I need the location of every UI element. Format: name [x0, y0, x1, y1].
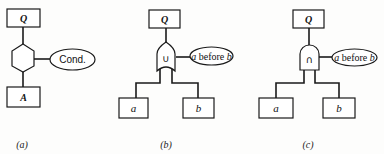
- node-a-label: A: [19, 92, 27, 103]
- inhibit-gate-hexagon-icon: [12, 44, 34, 72]
- node-q-label: Q: [305, 14, 312, 25]
- caption-b: (b): [160, 139, 172, 151]
- intersection-symbol: ∩: [306, 54, 313, 65]
- node-q-label: Q: [161, 14, 168, 25]
- union-symbol: ∪: [162, 53, 169, 64]
- connector-and-gate-to-a: [276, 70, 304, 98]
- node-a-label: a: [273, 102, 279, 114]
- panel-c: Q ∩ a before b a b (c): [259, 10, 377, 151]
- caption-a: (a): [16, 139, 28, 151]
- condition-label: Cond.: [59, 54, 86, 65]
- node-a-label: a: [131, 102, 137, 114]
- node-b-label: b: [196, 102, 202, 114]
- connector-or-gate-to-b: [172, 68, 198, 98]
- fault-tree-figure: Q Cond. A (a) Q ∪ a before b a b (b) Q: [0, 0, 384, 154]
- connector-and-gate-to-b: [315, 70, 339, 98]
- connector-or-gate-to-a: [136, 68, 160, 98]
- node-q-label: Q: [20, 13, 27, 24]
- caption-c: (c): [302, 139, 314, 151]
- condition-label: a before b: [334, 52, 375, 63]
- condition-label: a before b: [191, 51, 232, 62]
- node-b-label: b: [336, 102, 342, 114]
- panel-b: Q ∪ a before b a b (b): [119, 10, 233, 151]
- panel-a: Q Cond. A (a): [7, 9, 95, 151]
